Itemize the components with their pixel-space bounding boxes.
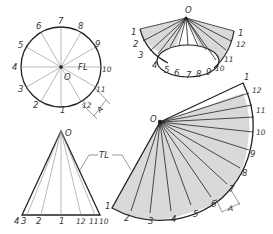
development-label-4: 4 bbox=[171, 214, 176, 224]
pictorial-label-11: 11 bbox=[224, 55, 234, 64]
point-label-4: 4 bbox=[12, 62, 17, 72]
point-label-11: 11 bbox=[96, 85, 106, 94]
pictorial-label-4: 4 bbox=[152, 60, 157, 70]
pictorial-label-5: 5 bbox=[164, 65, 169, 75]
development-label-12: 12 bbox=[252, 86, 262, 95]
development-label-3: 3 bbox=[148, 216, 153, 226]
pictorial-apex-label: O bbox=[185, 5, 192, 15]
development-label-7: 7 bbox=[229, 184, 235, 194]
pictorial-view: O 1 2 3 4 5 6 7 8 9 10 11 12 1 bbox=[131, 5, 246, 80]
point-label-2: 2 bbox=[33, 100, 38, 110]
development-label-6: 6 bbox=[211, 199, 217, 209]
development-label-11: 11 bbox=[256, 106, 266, 115]
front-label-12: 12 bbox=[76, 217, 86, 226]
pictorial-label-1-end: 1 bbox=[238, 28, 243, 38]
pictorial-label-2: 2 bbox=[133, 39, 138, 49]
front-element-lines bbox=[27, 131, 95, 215]
top-view: O FL 7 8 9 10 11 12 6 5 4 3 2 1 A bbox=[12, 16, 112, 119]
pictorial-label-7: 7 bbox=[186, 70, 192, 80]
point-label-9: 9 bbox=[95, 39, 100, 49]
pictorial-label-9: 9 bbox=[206, 67, 211, 77]
point-label-10: 10 bbox=[102, 65, 112, 74]
front-label-1: 1 bbox=[59, 216, 64, 226]
development-label-9: 9 bbox=[250, 149, 255, 159]
pictorial-label-10: 10 bbox=[215, 64, 225, 73]
pictorial-label-6: 6 bbox=[174, 68, 180, 78]
point-label-8: 8 bbox=[78, 21, 84, 31]
apex-label: O bbox=[64, 72, 71, 82]
development-apex-point bbox=[158, 120, 162, 124]
front-view: O TL 4 3 2 1 12 11 10 bbox=[14, 128, 131, 226]
front-label-3: 3 bbox=[21, 216, 26, 226]
development-view: O 1 12 11 10 9 8 7 6 5 4 3 2 1 A bbox=[105, 72, 266, 226]
cone-development-drawing: O FL 7 8 9 10 11 12 6 5 4 3 2 1 A bbox=[0, 0, 273, 234]
pictorial-label-12: 12 bbox=[236, 40, 246, 49]
development-label-2: 2 bbox=[124, 213, 129, 223]
pictorial-label-1: 1 bbox=[131, 27, 136, 37]
development-label-8: 8 bbox=[242, 168, 248, 178]
development-label-1: 1 bbox=[105, 201, 110, 211]
point-label-7: 7 bbox=[58, 16, 64, 26]
development-dimension-a-label: A bbox=[227, 204, 233, 213]
point-label-5: 5 bbox=[18, 40, 23, 50]
front-label-11: 11 bbox=[89, 217, 99, 226]
development-label-5: 5 bbox=[193, 209, 198, 219]
true-length-label: TL bbox=[99, 150, 109, 160]
front-apex-label: O bbox=[65, 128, 72, 138]
point-label-3: 3 bbox=[18, 84, 23, 94]
pictorial-label-3: 3 bbox=[138, 50, 143, 60]
development-label-1-end: 1 bbox=[244, 72, 249, 82]
point-label-1: 1 bbox=[60, 105, 65, 115]
point-label-6: 6 bbox=[36, 21, 42, 31]
pictorial-label-8: 8 bbox=[196, 69, 202, 79]
development-label-10: 10 bbox=[256, 128, 266, 137]
development-apex-label: O bbox=[150, 114, 157, 124]
front-label-2: 2 bbox=[36, 216, 41, 226]
front-label-4: 4 bbox=[14, 216, 19, 226]
front-label-10: 10 bbox=[99, 217, 109, 226]
fold-line-label: FL bbox=[78, 62, 88, 72]
apex-point bbox=[59, 65, 63, 69]
